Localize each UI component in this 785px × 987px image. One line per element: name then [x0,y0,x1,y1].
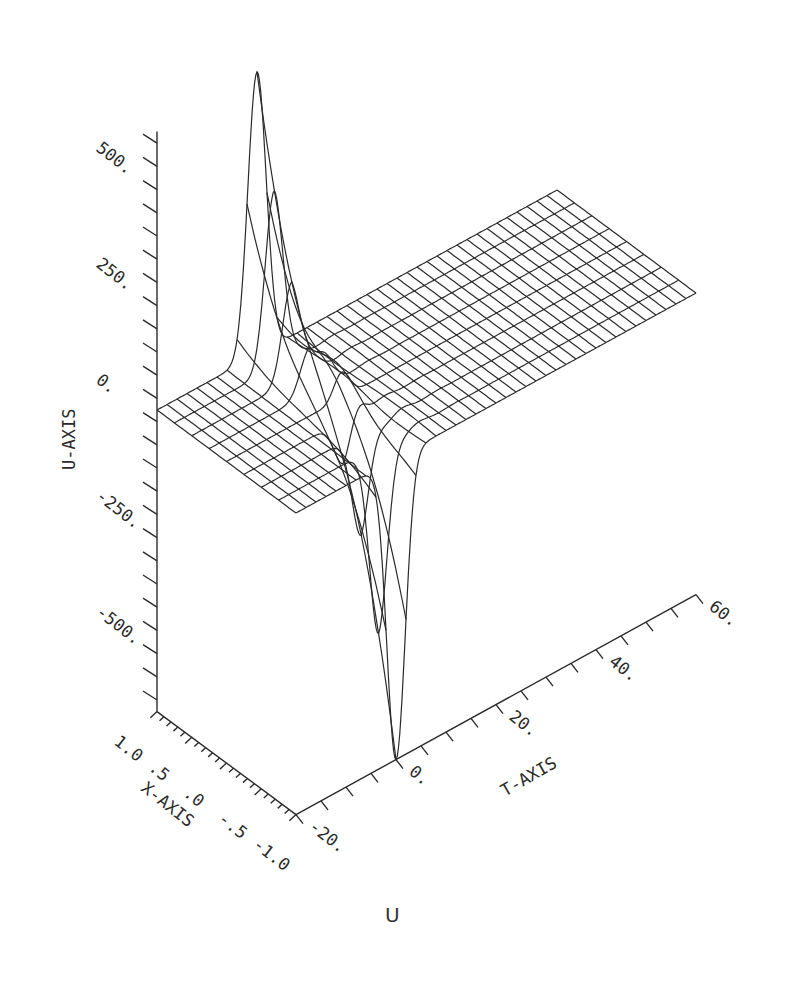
x-axis-tick [271,799,275,803]
mesh-line [217,377,356,480]
mesh-line [367,295,506,398]
u-axis-tick [143,691,157,700]
mesh-line [557,190,696,293]
x-axis-tick [289,815,296,821]
u-axis-title: U-AXIS [59,409,79,470]
x-axis-tick [215,758,219,762]
mesh-line [261,267,661,535]
mesh-line [517,212,656,315]
x-axis-tick [167,722,171,726]
mesh-line [307,328,446,431]
mesh-line [387,284,526,387]
mesh-line [347,306,486,409]
x-axis-tick [229,768,233,772]
u-axis-tick [143,204,157,213]
u-axis-tick [143,598,157,607]
x-axis-tick [160,717,164,721]
u-axis-tick [143,413,157,422]
u-axis-tick [143,389,157,398]
mesh-line [407,273,546,376]
x-axis-tick [185,737,192,743]
u-axis-tick [143,134,157,143]
u-axis-tick [143,297,157,306]
mesh-line [187,394,326,497]
u-tick-label: -500. [93,601,146,648]
mesh-line [157,72,557,410]
t-axis-tick [346,787,353,796]
t-axis-title: T-AXIS [497,752,560,800]
mesh-line [337,311,476,414]
x-axis-tick [201,748,205,752]
t-axis-tick [546,677,553,686]
mesh-line [317,322,456,425]
t-axis-tick [521,691,528,700]
mesh-line [279,280,679,633]
u-axis-tick [143,459,157,468]
mesh-line [227,370,366,476]
u-axis-tick [143,273,157,282]
mesh-line [174,191,574,423]
x-axis-tick [194,743,198,747]
u-axis-tick [143,529,157,538]
t-axis-tick [621,636,628,645]
x-tick-label: -1.0 [250,834,295,875]
t-tick-label: 20. [506,706,543,741]
x-axis-tick [173,727,177,731]
mesh-line [527,207,666,310]
u-tick-label: 250. [93,253,138,294]
x-tick-label: -.5 [215,808,252,843]
u-axis-tick [143,482,157,491]
x-axis-tick [278,804,282,808]
u-tick-label: 0. [93,369,121,397]
mesh-line [157,410,296,513]
mesh-line [537,201,676,304]
u-tick-label: -250. [93,485,146,532]
mesh-line [547,196,686,299]
x-tick-label: 1.0 [111,731,148,766]
t-axis-tick [471,718,478,727]
u-axis-tick [143,552,157,561]
mesh-line [177,399,316,502]
x-axis-tick [220,763,227,769]
mesh-line [377,289,516,392]
u-axis-tick [143,645,157,654]
u-axis-tick [143,436,157,445]
x-axis-tick [180,732,184,736]
surface-plot: -500.-250.0.250.500.U-AXIS1.0.5.0-.5-1.0… [0,0,785,987]
u-tick-label: 500. [93,137,138,178]
u-axis-tick [143,157,157,166]
x-axis-tick [243,779,247,783]
t-tick-label: 40. [606,651,643,686]
mesh-line [167,405,306,508]
mesh-line [197,388,336,491]
figure-caption: U [385,903,400,927]
t-axis-tick [596,650,603,659]
u-axis-tick [143,181,157,190]
u-axis-tick [143,668,157,677]
mesh-line [397,278,536,381]
t-axis-tick [321,801,328,810]
x-axis-tick [236,773,240,777]
u-axis-tick [143,575,157,584]
x-axis-tick [285,809,289,813]
u-axis-tick [143,621,157,630]
mesh-line [297,333,436,436]
mesh-line [457,245,596,348]
mesh-line [477,234,616,337]
t-axis-tick [671,608,678,617]
mesh-line [417,267,556,370]
u-axis-tick [143,320,157,329]
mesh-line [447,251,586,354]
mesh-line [247,204,386,631]
mesh-line [257,72,396,760]
t-axis-tick [371,773,378,782]
mesh-line [267,193,406,620]
t-axis-tick [571,663,578,672]
x-axis-tick [255,789,262,795]
u-axis-tick [143,505,157,514]
u-axis-tick [143,250,157,259]
mesh-line [467,240,606,343]
x-axis-tick [250,784,254,788]
t-tick-label: -20. [306,816,351,857]
t-axis-tick [296,815,303,824]
